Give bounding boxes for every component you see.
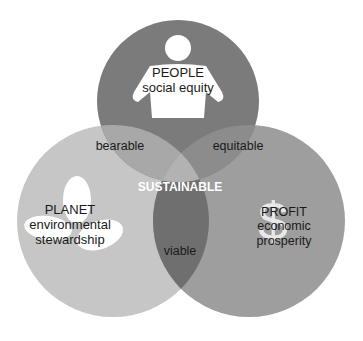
- people-title: PEOPLE: [128, 66, 228, 81]
- people-label: PEOPLE social equity: [128, 66, 228, 96]
- planet-subtitle-1: environmental: [20, 218, 120, 233]
- equitable-label: equitable: [203, 139, 273, 153]
- planet-label: PLANET environmental stewardship: [20, 203, 120, 248]
- planet-subtitle-2: stewardship: [20, 233, 120, 248]
- viable-label: viable: [150, 244, 210, 258]
- profit-subtitle-2: prosperity: [244, 234, 324, 248]
- venn-diagram: $: [0, 0, 363, 341]
- people-subtitle: social equity: [128, 81, 228, 96]
- profit-label: PROFIT economic prosperity: [244, 205, 324, 248]
- profit-title: PROFIT: [244, 205, 324, 219]
- profit-subtitle-1: economic: [244, 219, 324, 233]
- bearable-label: bearable: [90, 139, 150, 153]
- planet-title: PLANET: [20, 203, 120, 218]
- sustainable-label: SUSTAINABLE: [125, 181, 235, 195]
